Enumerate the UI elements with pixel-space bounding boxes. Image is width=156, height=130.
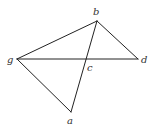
point-labels: b g d a c bbox=[7, 6, 147, 126]
segment-g-b bbox=[17, 21, 97, 59]
geometry-diagram: b g d a c bbox=[0, 0, 156, 130]
segment-g-a bbox=[17, 59, 71, 112]
label-point-g: g bbox=[7, 54, 13, 65]
label-point-d: d bbox=[141, 54, 147, 65]
segment-a-b bbox=[71, 21, 97, 112]
label-point-c: c bbox=[87, 62, 93, 73]
segments bbox=[17, 21, 138, 112]
label-point-b: b bbox=[93, 6, 99, 17]
segment-b-d bbox=[97, 21, 138, 59]
label-point-a: a bbox=[67, 115, 73, 126]
